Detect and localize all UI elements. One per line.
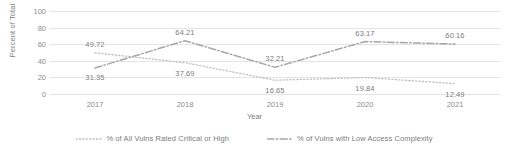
data-label: 63.17	[355, 28, 374, 37]
legend-item-2[interactable]: % of Vulns with Low Access Complexity	[267, 134, 433, 143]
dash-dot-line-icon	[267, 135, 293, 143]
y-axis-tick-label: 0	[42, 90, 46, 99]
data-label: 12.49	[445, 89, 464, 98]
data-label: 37.69	[175, 68, 194, 77]
y-axis-title: Percent of Total	[8, 0, 17, 71]
plot-area: 49.7237.6916.6519.8412.4931.3564.2132.21…	[50, 11, 500, 94]
y-axis-tick-label: 60	[38, 40, 46, 49]
x-axis-tick-label: 2018	[177, 100, 194, 109]
chart-legend: % of All Vulns Rated Critical or High% o…	[0, 134, 509, 143]
x-axis-tick-label: 2021	[447, 100, 464, 109]
dotted-line-icon	[76, 135, 102, 143]
x-axis-tick-label: 2019	[267, 100, 284, 109]
data-label: 32.21	[265, 54, 284, 63]
x-axis-tick-label: 2020	[357, 100, 374, 109]
y-axis-tick-label: 20	[38, 73, 46, 82]
y-axis-tick-label: 80	[38, 23, 46, 32]
data-label: 64.21	[175, 27, 194, 36]
y-axis-tick-label: 40	[38, 56, 46, 65]
x-axis-tick-label: 2017	[87, 100, 104, 109]
line-chart: Percent of Total 020406080100 49.7237.69…	[0, 0, 509, 156]
data-label: 31.35	[85, 72, 104, 81]
legend-label: % of Vulns with Low Access Complexity	[297, 134, 433, 143]
y-axis-tick-label: 100	[33, 7, 46, 16]
legend-label: % of All Vulns Rated Critical or High	[106, 134, 229, 143]
data-label: 49.72	[85, 39, 104, 48]
series-lines	[50, 11, 500, 94]
y-axis-tick-labels: 020406080100	[20, 0, 46, 156]
data-label: 19.84	[355, 83, 374, 92]
data-label: 16.65	[265, 86, 284, 95]
x-axis-title: Year	[0, 112, 509, 121]
legend-item-1[interactable]: % of All Vulns Rated Critical or High	[76, 134, 229, 143]
data-label: 60.16	[445, 31, 464, 40]
